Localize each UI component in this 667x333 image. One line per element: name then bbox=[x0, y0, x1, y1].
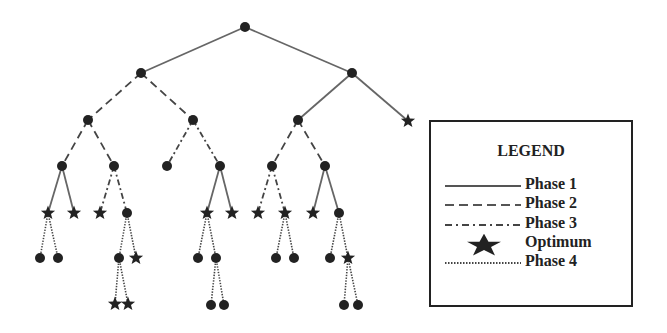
edge-phase-4 bbox=[344, 258, 348, 305]
dotted-line-icon bbox=[445, 253, 523, 271]
edge-phase-2 bbox=[62, 120, 88, 166]
legend-label: Phase 4 bbox=[525, 252, 577, 270]
edge-phase-3 bbox=[258, 166, 272, 213]
edge-phase-3 bbox=[193, 120, 220, 166]
tree-node bbox=[267, 161, 277, 171]
optimum-star-icon bbox=[306, 206, 320, 220]
legend-label: Phase 3 bbox=[525, 214, 577, 232]
edge-phase-3 bbox=[167, 120, 193, 166]
edge-phase-1 bbox=[352, 73, 408, 121]
tree-node bbox=[211, 253, 221, 263]
tree-node bbox=[57, 161, 67, 171]
tree-node bbox=[109, 161, 119, 171]
edge-phase-1 bbox=[62, 166, 74, 213]
edge-phase-4 bbox=[348, 258, 358, 305]
edge-phase-2 bbox=[272, 120, 298, 166]
legend-label: Phase 2 bbox=[525, 194, 577, 212]
edge-phase-3 bbox=[100, 166, 114, 213]
optimum-star-icon bbox=[129, 251, 143, 265]
edge-phase-1 bbox=[220, 166, 232, 213]
legend-item-phase-3: Phase 3 bbox=[445, 215, 630, 233]
legend-item-phase-4: Phase 4 bbox=[445, 253, 630, 271]
edge-phase-3 bbox=[114, 166, 127, 213]
solid-line-icon bbox=[445, 176, 523, 194]
legend-label: Phase 1 bbox=[525, 175, 577, 193]
edge-phase-4 bbox=[211, 258, 216, 305]
tree-node bbox=[193, 253, 203, 263]
tree-nodes bbox=[35, 22, 415, 310]
tree-node bbox=[353, 300, 363, 310]
edge-phase-4 bbox=[119, 213, 127, 258]
edge-phase-1 bbox=[313, 166, 325, 213]
edge-phase-1 bbox=[245, 27, 352, 73]
edge-phase-2 bbox=[141, 73, 193, 120]
legend-title: LEGEND bbox=[431, 142, 631, 160]
edge-phase-4 bbox=[127, 213, 136, 258]
tree-node bbox=[35, 253, 45, 263]
tree-node bbox=[162, 161, 172, 171]
tree-node bbox=[334, 208, 344, 218]
optimum-star-icon bbox=[108, 297, 122, 311]
edge-phase-2 bbox=[88, 120, 114, 166]
edge-phase-4 bbox=[216, 258, 224, 305]
edge-phase-1 bbox=[207, 166, 220, 213]
dashed-line-icon bbox=[445, 195, 523, 213]
edge-phase-4 bbox=[198, 213, 207, 258]
tree-node bbox=[114, 253, 124, 263]
optimum-star-icon bbox=[93, 206, 107, 220]
edge-phase-2 bbox=[298, 120, 325, 166]
edge-phase-4 bbox=[115, 258, 119, 304]
edge-phase-1 bbox=[298, 73, 352, 120]
optimum-star-icon bbox=[67, 206, 81, 220]
edge-phase-4 bbox=[276, 213, 285, 258]
edge-phase-1 bbox=[325, 166, 339, 213]
legend-item-phase-2: Phase 2 bbox=[445, 195, 630, 213]
optimum-star-icon bbox=[121, 297, 135, 311]
tree-node bbox=[240, 22, 250, 32]
optimum-star-icon bbox=[401, 114, 415, 128]
tree-node bbox=[206, 300, 216, 310]
edge-phase-4 bbox=[330, 213, 339, 258]
edge-phase-4 bbox=[207, 213, 216, 258]
tree-node bbox=[293, 115, 303, 125]
tree-node bbox=[339, 300, 349, 310]
edge-phase-4 bbox=[40, 213, 48, 258]
edge-phase-4 bbox=[48, 213, 58, 258]
tree-node bbox=[271, 253, 281, 263]
tree-node bbox=[136, 68, 146, 78]
tree-node bbox=[215, 161, 225, 171]
legend-box: LEGEND Phase 1 Phase 2 Phase 3 Optimum P… bbox=[429, 120, 633, 307]
edge-phase-4 bbox=[285, 213, 294, 258]
legend-label: Optimum bbox=[525, 233, 592, 251]
edge-phase-4 bbox=[119, 258, 128, 304]
tree-node bbox=[289, 253, 299, 263]
optimum-star-icon bbox=[225, 206, 239, 220]
legend-item-phase-1: Phase 1 bbox=[445, 176, 630, 194]
edge-phase-4 bbox=[339, 213, 348, 258]
tree-node bbox=[188, 115, 198, 125]
tree-node bbox=[122, 208, 132, 218]
edge-phase-3 bbox=[272, 166, 285, 213]
tree-node bbox=[53, 253, 63, 263]
dashdot-line-icon bbox=[445, 215, 523, 233]
tree-node bbox=[83, 115, 93, 125]
tree-node bbox=[325, 253, 335, 263]
edge-phase-1 bbox=[141, 27, 245, 73]
edge-phase-1 bbox=[48, 166, 62, 213]
tree-node bbox=[219, 300, 229, 310]
legend-item-optimum: Optimum bbox=[445, 234, 630, 252]
tree-node bbox=[347, 68, 357, 78]
tree-node bbox=[320, 161, 330, 171]
edge-phase-2 bbox=[88, 73, 141, 120]
optimum-star-icon bbox=[251, 206, 265, 220]
